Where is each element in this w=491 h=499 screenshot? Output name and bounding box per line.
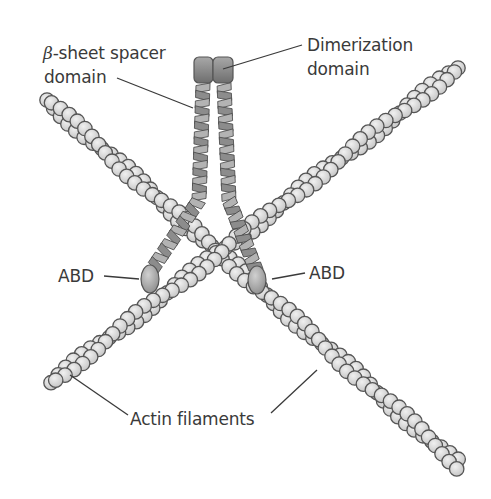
abd-left-label: ABD: [58, 265, 94, 287]
actin-filaments-label: Actin filaments: [130, 408, 254, 430]
actin-left-leader: [70, 375, 128, 415]
dimerization-domain: [194, 57, 233, 83]
actin-right-leader: [271, 370, 317, 413]
abd-right-shape: [248, 266, 266, 294]
abd-right-leader: [272, 273, 305, 279]
dimerization-domain-label: Dimerization: [307, 34, 413, 56]
dimer-leader: [223, 45, 302, 69]
abd-right-label: ABD: [309, 262, 345, 284]
spacer-domain-label-line2: domain: [44, 66, 106, 88]
spacer-domain-label: β-sheet spacer: [43, 42, 166, 64]
abd-left-leader: [104, 276, 139, 279]
dimerization-domain-label-line2: domain: [307, 58, 369, 80]
actin-filament-b: [44, 61, 465, 390]
abd-left-shape: [141, 265, 159, 293]
beta-symbol: β: [43, 43, 53, 63]
spacer-leader: [117, 78, 193, 108]
